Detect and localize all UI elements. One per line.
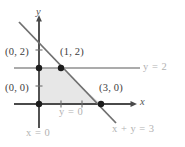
vertex-label-1-2: (1, 2) [60,47,84,58]
vertex-dot-0-0 [36,101,42,107]
coordinate-graph-figure: (0, 2) (1, 2) (0, 0) (3, 0) y = 2 y = 0 … [0,0,185,147]
vertex-label-3-0: (3, 0) [99,83,123,94]
vertex-dot-0-2 [36,65,42,71]
graph-canvas [0,0,185,147]
x-axis-label: x [140,97,145,108]
vertex-dot-1-2 [58,65,64,71]
constraint-label-y-equals-2: y = 2 [143,62,167,73]
vertex-label-0-0: (0, 0) [5,83,29,94]
x-axis-arrowhead [131,101,138,107]
constraint-label-x-plus-y-equals-3: x + y = 3 [112,124,155,135]
constraint-label-y-equals-0: y = 0 [59,107,83,118]
vertex-label-0-2: (0, 2) [5,47,29,58]
y-axis-label: y [36,7,41,18]
constraint-label-x-equals-0: x = 0 [26,128,50,139]
vertex-dot-3-0 [98,101,104,107]
